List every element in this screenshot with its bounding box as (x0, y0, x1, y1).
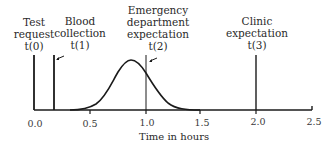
arrow-head-t1 (56, 57, 59, 60)
marker-t2-line3: expectation (127, 28, 189, 40)
marker-label-t3: Clinic expectation t(3) (226, 15, 288, 51)
marker-t0-line2: request (14, 28, 55, 40)
marker-t1-line3: t(1) (54, 39, 106, 51)
tick-label-1-5: 1.5 (194, 117, 209, 128)
marker-t2-line1: Emergency (127, 4, 189, 16)
marker-t0-line1: Test (14, 16, 55, 28)
marker-t3-line1: Clinic (226, 15, 288, 27)
tick-label-2-5: 2.5 (306, 116, 321, 127)
distribution-curve (70, 60, 200, 110)
marker-t3-line3: t(3) (226, 39, 288, 51)
tick-label-0-0: 0.0 (27, 118, 42, 129)
x-axis-title: Time in hours (139, 131, 209, 143)
arrow-head-t2 (149, 59, 152, 62)
tick-label-1-0: 1.0 (139, 117, 154, 128)
marker-label-t1: Blood collection t(1) (54, 15, 106, 51)
marker-t3-line2: expectation (226, 27, 288, 39)
marker-t1-line1: Blood (54, 15, 106, 27)
marker-t1-line2: collection (54, 27, 106, 39)
marker-t0-line3: t(0) (14, 40, 55, 52)
marker-label-t2: Emergency department expectation t(2) (127, 4, 189, 52)
diagram-canvas: Test request t(0) Blood collection t(1) … (0, 0, 334, 149)
marker-t2-line2: department (127, 16, 189, 28)
marker-t2-line4: t(2) (127, 40, 189, 52)
tick-label-2-0: 2.0 (250, 116, 265, 127)
tick-label-0-5: 0.5 (82, 118, 97, 129)
marker-label-t0: Test request t(0) (14, 16, 55, 52)
